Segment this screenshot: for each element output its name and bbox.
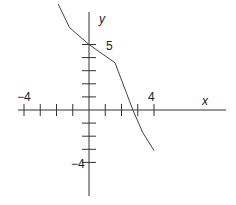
x-tick-label-4: 4 (148, 90, 155, 104)
y-axis-label: y (98, 12, 106, 26)
function-curve (58, 4, 154, 151)
x-axis-label: x (201, 94, 209, 108)
graph-canvas: y x 5 4 −4 −4 (0, 0, 236, 205)
y-tick-label-neg4: −4 (71, 157, 85, 171)
y-tick-label-5: 5 (106, 39, 113, 53)
x-tick-label-neg4: −4 (17, 90, 31, 104)
graph-figure: y x 5 4 −4 −4 (0, 0, 236, 205)
